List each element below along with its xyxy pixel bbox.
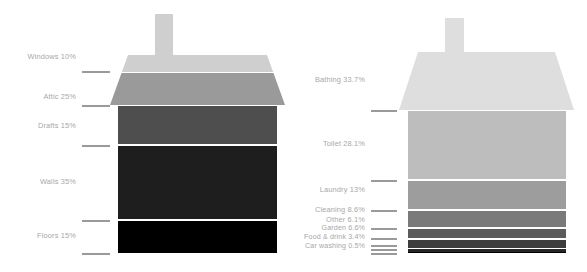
heat-loss-chart: Windows 10% Attic 25% Drafts 15% Walls 3… [0,0,294,272]
label-text: Other 6.1% [326,216,365,223]
tick-mark [371,253,397,255]
label-text: Bathing 33.7% [315,76,365,83]
tick-mark [371,110,397,112]
label-car-washing: Car washing 0.5% [293,243,365,250]
label-text: Drafts 15% [38,122,76,129]
tick-mark [371,245,397,247]
label-floors: Floors 15% [0,232,76,239]
tick-mark [82,253,110,255]
label-cleaning: Cleaning 8.6% [293,206,365,213]
label-garden: Garden 6.6% [293,225,365,232]
tick-mark [82,145,110,147]
label-food-drink: Food & drink 3.4% [293,234,365,241]
tick-mark [82,105,110,107]
label-text: Floors 15% [37,232,76,239]
tick-mark [371,210,397,212]
label-text: Windows 10% [28,53,76,60]
tick-mark [371,238,397,240]
label-drafts: Drafts 15% [0,122,76,129]
label-text: Food & drink 3.4% [304,234,365,241]
label-windows: Windows 10% [0,53,76,60]
label-laundry: Laundry 13% [293,186,365,193]
tick-mark [371,180,397,182]
tick-mark [371,228,397,230]
label-text: Cleaning 8.6% [315,206,365,213]
label-walls: Walls 35% [0,178,76,185]
tick-mark [82,71,110,73]
label-other: Other 6.1% [293,216,365,223]
label-text: Attic 25% [43,93,76,100]
tick-mark [371,249,397,251]
label-toilet: Toilet 28.1% [293,140,365,147]
label-text: Walls 35% [40,178,76,185]
label-text: Car washing 0.5% [305,243,365,250]
tick-mark [82,220,110,222]
label-text: Laundry 13% [320,186,365,193]
label-bathing: Bathing 33.7% [293,76,365,83]
infographic-root: Windows 10% Attic 25% Drafts 15% Walls 3… [0,0,587,272]
water-use-labels: Bathing 33.7% Toilet 28.1% Laundry 13% C… [293,0,587,272]
label-text: Garden 6.6% [322,225,365,232]
water-use-chart: Bathing 33.7% Toilet 28.1% Laundry 13% C… [293,0,587,272]
label-attic: Attic 25% [0,93,76,100]
heat-loss-labels: Windows 10% Attic 25% Drafts 15% Walls 3… [0,0,294,272]
label-text: Toilet 28.1% [323,140,365,147]
